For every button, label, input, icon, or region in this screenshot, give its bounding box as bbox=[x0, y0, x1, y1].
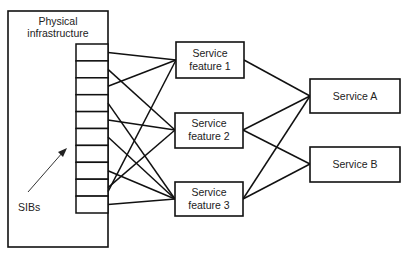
sib-cell-2 bbox=[76, 61, 108, 78]
sib-cell-3 bbox=[76, 78, 108, 95]
service-feature-3-label-line1: Service bbox=[191, 186, 226, 198]
service-feature-1: Service feature 1 bbox=[176, 42, 244, 78]
edge-sib10-to-sf3 bbox=[108, 199, 175, 205]
service-feature-1-label-line1: Service bbox=[192, 47, 227, 59]
service-a-label: Service A bbox=[333, 90, 377, 102]
sib-cell-1 bbox=[76, 44, 108, 61]
sibs-label: SIBs bbox=[18, 201, 40, 213]
edge-sib6-to-sf3 bbox=[108, 137, 175, 199]
sib-cell-5 bbox=[76, 112, 108, 129]
service-feature-3: Service feature 3 bbox=[175, 182, 243, 216]
sib-cell-10 bbox=[76, 196, 108, 213]
service-feature-2: Service feature 2 bbox=[175, 113, 243, 148]
physical-infrastructure-label-line1: Physical bbox=[38, 15, 77, 27]
edge-sf3-to-svcB bbox=[243, 164, 310, 199]
sib-cell-8 bbox=[76, 162, 108, 179]
edge-sib9-to-sf1 bbox=[108, 60, 176, 192]
service-feature-3-label-line2: feature 3 bbox=[188, 199, 230, 211]
network-diagram: Physical infrastructure SIBs Service fea… bbox=[0, 0, 407, 257]
service-feature-1-label-line2: feature 1 bbox=[189, 60, 231, 72]
sib-column bbox=[76, 44, 108, 213]
sibs-arrow-shaft bbox=[28, 152, 63, 192]
edge-sib1-to-sf1 bbox=[108, 52, 176, 60]
edge-sib3-to-sf1 bbox=[108, 60, 176, 86]
service-a: Service A bbox=[310, 79, 400, 113]
edge-sf3-to-svcA bbox=[243, 96, 310, 199]
sib-cell-6 bbox=[76, 129, 108, 146]
edge-sf2-to-svcA bbox=[243, 96, 310, 130]
sib-cell-9 bbox=[76, 179, 108, 196]
service-b: Service B bbox=[310, 147, 400, 182]
service-b-label: Service B bbox=[333, 158, 378, 170]
edge-sib9-to-sf2 bbox=[108, 130, 175, 188]
physical-infrastructure-label-line2: infrastructure bbox=[27, 27, 88, 39]
service-feature-2-label-line1: Service bbox=[191, 117, 226, 129]
edge-sf1-to-svcA bbox=[244, 60, 310, 96]
sib-cell-7 bbox=[76, 145, 108, 162]
service-feature-2-label-line2: feature 2 bbox=[188, 130, 230, 142]
sib-cell-4 bbox=[76, 95, 108, 112]
